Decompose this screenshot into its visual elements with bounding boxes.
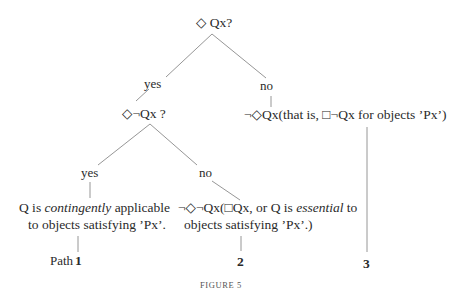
conclusion-path-1-line2: to objects satisfying ʼPxʼ. xyxy=(28,217,166,232)
label-no-1: no xyxy=(260,78,273,93)
path-number-2: 2 xyxy=(237,254,244,269)
conclusion-path-2-line1: ¬◇¬Qx(□Qx, or Q is essential to xyxy=(178,200,357,215)
edge-q2-no xyxy=(150,124,197,165)
label-yes-2: yes xyxy=(81,165,98,180)
second-question: ◇¬Qx ? xyxy=(122,106,166,121)
decision-tree-figure: ◇ Qx? yes no ◇¬Qx ? ¬◇Qx(that is, □¬Qx f… xyxy=(0,0,453,297)
edge-root-no xyxy=(212,34,266,78)
emphasis-contingently: contingently xyxy=(45,200,112,215)
path-word: Path xyxy=(50,253,73,268)
edge-no2-conclusion xyxy=(212,181,240,200)
edge-q2-yes xyxy=(98,124,150,165)
label-no-2: no xyxy=(199,165,212,180)
conclusion-path-3: ¬◇Qx(that is, □¬Qx for objects ʼPxʼ) xyxy=(244,107,446,122)
path-number-3: 3 xyxy=(363,256,370,271)
root-question: ◇ Qx? xyxy=(196,15,232,30)
label-yes-1: yes xyxy=(144,76,161,91)
conclusion-path-1-line1: Q is contingently applicable xyxy=(19,200,170,215)
edge-root-yes-upper xyxy=(166,34,212,77)
conclusion-path-2-line2: objects satisfying ʼPxʼ.) xyxy=(184,217,313,232)
figure-caption: FIGURE 5 xyxy=(200,278,242,293)
emphasis-essential: essential xyxy=(296,200,343,215)
path-number-1: 1 xyxy=(75,253,82,268)
